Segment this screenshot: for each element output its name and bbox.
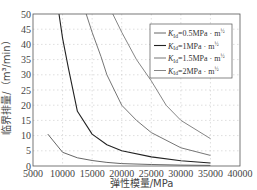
legend: KId=0.5MPa · m½KId=1MPa · m½KId=1.5MPa ·… <box>150 24 232 78</box>
line-chart: 500010000150002000025000300003500040000 … <box>0 0 257 190</box>
y-tick-label: 40 <box>21 39 31 50</box>
x-tick-label: 10000 <box>50 168 75 179</box>
y-axis-ticks: 05101520253035404550 <box>21 9 31 172</box>
x-tick-label: 35000 <box>198 168 223 179</box>
x-axis-title: 弹性模量/MPa <box>110 177 174 189</box>
y-tick-label: 35 <box>21 54 31 65</box>
y-tick-label: 45 <box>21 24 31 35</box>
y-axis-title: 临界排量/（m³/min） <box>0 35 12 134</box>
y-tick-label: 0 <box>26 161 31 172</box>
y-tick-label: 5 <box>26 145 31 156</box>
y-tick-label: 10 <box>21 130 31 141</box>
y-tick-label: 15 <box>21 115 31 126</box>
y-tick-label: 20 <box>21 100 31 111</box>
y-tick-label: 50 <box>21 9 31 20</box>
x-tick-label: 15000 <box>80 168 105 179</box>
x-tick-label: 40000 <box>228 168 253 179</box>
y-tick-label: 25 <box>21 85 31 96</box>
y-tick-label: 30 <box>21 69 31 80</box>
